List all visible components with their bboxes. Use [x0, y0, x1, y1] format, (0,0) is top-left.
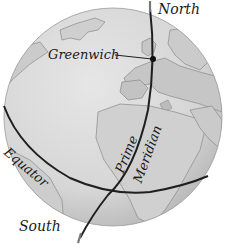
greenwich-label: Greenwich: [48, 48, 119, 61]
greenwich-dot: [150, 56, 156, 62]
globe-diagram: North Greenwich Equator Prime Meridian S…: [0, 0, 225, 244]
north-label: North: [158, 2, 200, 16]
globe-graphic: [0, 0, 225, 244]
south-axis-stub: [78, 233, 81, 243]
south-label: South: [19, 219, 61, 233]
